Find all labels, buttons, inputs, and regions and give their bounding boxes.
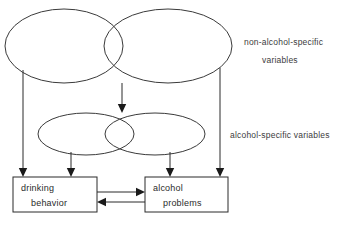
arrow-big-right-to-problems	[216, 68, 224, 177]
arrow-small-right-to-problems	[166, 152, 174, 177]
arrow-problems-to-drinking	[97, 198, 145, 206]
non-alcohol-specific-label-line2: variables	[262, 55, 298, 65]
alcohol-specific-ellipse-right	[105, 113, 205, 155]
arrow-big-left-to-drinking	[19, 70, 27, 177]
drinking-behavior-label-line1: drinking	[21, 183, 54, 193]
conceptual-model-diagram: non-alcohol-specific variables alcohol-s…	[0, 0, 355, 225]
non-alcohol-specific-ellipse-group	[5, 9, 232, 83]
alcohol-specific-label: alcohol-specific variables	[230, 130, 330, 140]
alcohol-specific-ellipse-group	[38, 113, 205, 155]
arrow-drinking-to-problems	[97, 188, 145, 196]
arrow-small-left-to-drinking	[67, 152, 75, 177]
drinking-behavior-label-line2: behavior	[31, 198, 67, 208]
alcohol-problems-label-line2: problems	[163, 198, 202, 208]
diagram-canvas: non-alcohol-specific variables alcohol-s…	[0, 0, 355, 225]
arrow-big-overlap-to-small-ellipses	[118, 83, 126, 113]
non-alcohol-specific-label-line1: non-alcohol-specific	[244, 37, 324, 47]
alcohol-problems-label-line1: alcohol	[153, 183, 183, 193]
